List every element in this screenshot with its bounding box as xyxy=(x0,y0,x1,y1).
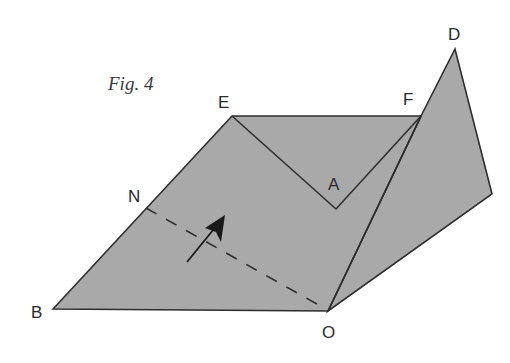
point-label-o: O xyxy=(322,323,335,342)
point-label-f: F xyxy=(403,90,413,109)
point-label-a: A xyxy=(328,175,340,194)
point-label-n: N xyxy=(128,187,140,206)
point-label-b: B xyxy=(31,303,42,322)
fold-diagram: Fig. 4 E F D A N B O xyxy=(0,0,510,363)
point-label-e: E xyxy=(218,93,229,112)
figure-caption: Fig. 4 xyxy=(107,73,154,94)
point-label-d: D xyxy=(448,25,460,44)
